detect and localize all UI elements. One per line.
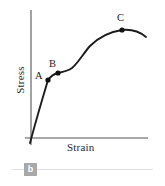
caption-badge-label: b — [24, 163, 37, 176]
stress-strain-curve — [30, 30, 146, 143]
data-point-b-marker — [55, 70, 60, 75]
x-axis-label: Strain — [67, 141, 94, 153]
chart-plot-area: A B C Strain Stress — [0, 0, 165, 155]
y-axis-label: Stress — [14, 58, 26, 102]
data-point-b-label: B — [49, 58, 56, 69]
data-point-c-label: C — [117, 12, 124, 23]
data-point-a-marker — [45, 77, 50, 82]
stress-strain-figure: A B C Strain Stress b — [0, 0, 165, 186]
figure-caption-bar: b — [0, 155, 165, 186]
data-point-c-marker — [119, 27, 124, 32]
data-point-a-label: A — [35, 70, 43, 81]
